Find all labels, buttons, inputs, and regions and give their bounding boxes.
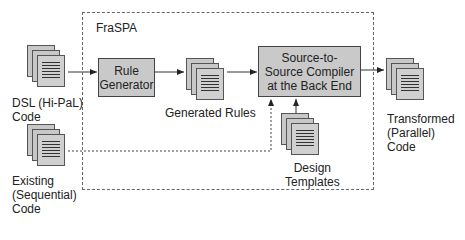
transformed-code-document-stack-icon xyxy=(386,58,426,102)
transformed-code-label: Transformed(Parallel) Code xyxy=(387,112,465,154)
generated-rules-document-stack-icon xyxy=(186,58,226,102)
rule-generator-box: Rule Generator xyxy=(98,58,155,97)
dsl-code-label: DSL (Hi-PaL)Code xyxy=(12,96,83,124)
fraspa-label: FraSPA xyxy=(96,21,137,35)
dsl-code-document-stack-icon xyxy=(27,45,67,89)
existing-code-document-stack-icon xyxy=(27,124,67,168)
design-templates-label: DesignTemplates xyxy=(285,161,340,189)
existing-code-label: Existing(Sequential)Code xyxy=(12,174,77,216)
design-templates-document-stack-icon xyxy=(281,113,321,157)
compiler-box: Source-to-Source Compiler at the Back En… xyxy=(258,46,361,97)
generated-rules-label: Generated Rules xyxy=(165,106,256,120)
